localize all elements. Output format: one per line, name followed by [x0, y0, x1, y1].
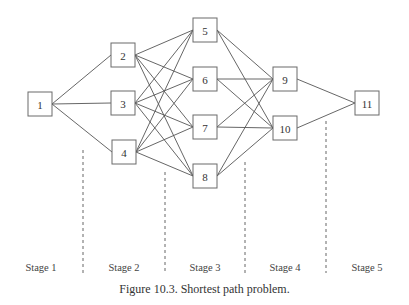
edge-1-3	[52, 103, 111, 104]
edge-3-7	[135, 103, 193, 127]
stage-label-5: Stage 5	[332, 262, 402, 273]
node-11: 11	[355, 91, 379, 115]
edges-layer	[52, 30, 355, 176]
stage-label-1: Stage 1	[6, 262, 76, 273]
node-1: 1	[28, 92, 52, 116]
node-9: 9	[273, 67, 297, 91]
node-7: 7	[193, 115, 217, 139]
node-6: 6	[193, 67, 217, 91]
node-5: 5	[193, 18, 217, 42]
stage-label-4: Stage 4	[250, 262, 320, 273]
edge-1-4	[52, 104, 112, 152]
node-label: 4	[121, 147, 127, 159]
edge-1-2	[52, 55, 111, 104]
shortest-path-network-diagram: 1234567891011	[0, 0, 409, 305]
node-2: 2	[111, 43, 135, 67]
node-label: 5	[202, 25, 208, 37]
node-8: 8	[193, 164, 217, 188]
edge-2-5	[135, 30, 193, 55]
edge-10-11	[297, 103, 355, 128]
node-label: 7	[202, 122, 208, 134]
edge-4-7	[136, 127, 193, 152]
node-4: 4	[112, 140, 136, 164]
stage-label-3: Stage 3	[170, 262, 240, 273]
edge-4-8	[136, 152, 193, 176]
node-label: 8	[202, 171, 208, 183]
node-label: 1	[37, 99, 43, 111]
nodes-layer: 1234567891011	[28, 18, 379, 188]
node-label: 11	[362, 98, 373, 110]
edge-3-6	[135, 79, 193, 103]
node-label: 2	[120, 50, 126, 62]
edge-9-11	[297, 79, 355, 103]
edge-5-9	[217, 30, 273, 79]
stage-label-2: Stage 2	[89, 262, 159, 273]
node-label: 9	[282, 74, 288, 86]
node-10: 10	[273, 116, 297, 140]
node-3: 3	[111, 91, 135, 115]
node-label: 10	[280, 123, 292, 135]
node-label: 3	[120, 98, 126, 110]
figure-caption: Figure 10.3. Shortest path problem.	[0, 282, 409, 297]
node-label: 6	[202, 74, 208, 86]
